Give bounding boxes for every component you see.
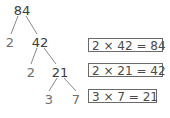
node-2-leaf-second: 2 — [27, 66, 35, 79]
edge-84-2 — [11, 16, 18, 34]
equation-box-1: 2 × 42 = 84 — [88, 38, 163, 52]
node-3-leaf: 3 — [45, 93, 53, 106]
edge-42-21 — [44, 48, 56, 64]
node-7-leaf: 7 — [72, 93, 80, 106]
node-42: 42 — [32, 36, 49, 49]
edge-42-2 — [31, 48, 37, 64]
equation-box-2: 2 × 21 = 42 — [88, 63, 163, 77]
node-2-leaf: 2 — [6, 36, 14, 49]
node-84: 84 — [14, 4, 31, 17]
edge-84-42 — [26, 16, 37, 34]
node-21: 21 — [52, 66, 69, 79]
equation-box-3: 3 × 7 = 21 — [88, 89, 157, 103]
